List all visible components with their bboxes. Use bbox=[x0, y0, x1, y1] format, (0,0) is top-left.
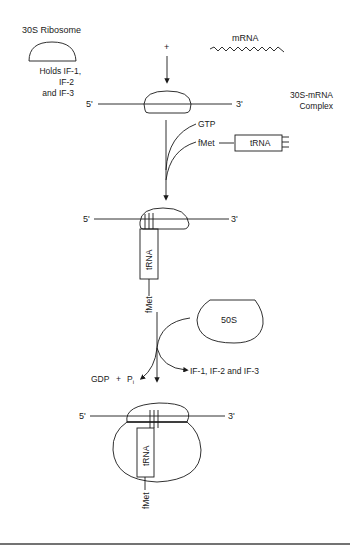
initiation-factors-label: IF-1, IF-2 and IF-3 bbox=[190, 366, 259, 376]
30s-ribosome-label: 30S Ribosome bbox=[22, 25, 81, 35]
five-prime-label-3: 5' bbox=[83, 214, 90, 224]
50s-join-curve bbox=[157, 318, 190, 348]
if-release-curve bbox=[157, 348, 186, 370]
30s-dome-3 bbox=[140, 208, 189, 229]
holds-label-2: IF-2 bbox=[28, 77, 74, 87]
30s-ribosome-shape bbox=[29, 42, 76, 61]
mrna-label: mRNA bbox=[232, 33, 259, 43]
complex-label-1: 30S-mRNA bbox=[280, 90, 333, 100]
gtp-label: GTP bbox=[198, 119, 215, 129]
three-prime-label-5: 3' bbox=[228, 411, 235, 421]
five-prime-label-2: 5' bbox=[86, 99, 93, 109]
gdp-label: GDP bbox=[91, 374, 109, 384]
pi-label: Pi bbox=[127, 374, 134, 387]
holds-label-1: Holds IF-1, bbox=[28, 66, 81, 76]
trna-label-2: tRNA bbox=[250, 138, 270, 148]
complex-label-2: Complex bbox=[280, 101, 333, 111]
plus-label: + bbox=[116, 374, 121, 384]
30s-dome-2 bbox=[144, 91, 191, 113]
holds-label-3: and IF-3 bbox=[28, 88, 74, 98]
plus-sign: + bbox=[164, 42, 169, 52]
five-prime-label-5: 5' bbox=[79, 411, 86, 421]
three-prime-label-2: 3' bbox=[236, 99, 243, 109]
trna-label-5: tRNA bbox=[141, 446, 151, 466]
50s-body-5 bbox=[113, 422, 201, 482]
fmet-label-5: fMet bbox=[141, 492, 151, 509]
gdp-release-curve bbox=[142, 348, 157, 378]
fmet-label-2: fMet bbox=[198, 138, 215, 148]
50s-label: 50S bbox=[221, 315, 237, 325]
three-prime-label-3: 3' bbox=[231, 214, 238, 224]
fmet-label-3: fMet bbox=[144, 296, 154, 313]
mrna-wave-icon bbox=[210, 47, 284, 52]
trna-label-3: tRNA bbox=[144, 250, 154, 270]
